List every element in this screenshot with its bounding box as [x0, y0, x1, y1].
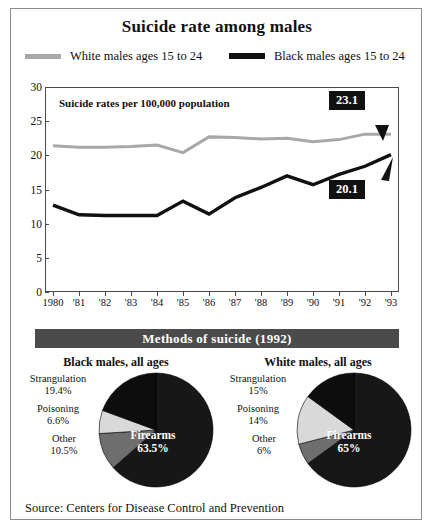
- x-tick-label: '86: [203, 297, 215, 308]
- x-tick-label: 1980: [43, 297, 64, 308]
- x-tick-label: '91: [333, 297, 345, 308]
- x-tick-label: '84: [151, 297, 163, 308]
- y-tick-mark: [45, 190, 49, 191]
- y-tick-label: 0: [16, 286, 42, 298]
- pie-slice-percent: 65%: [313, 442, 385, 455]
- y-tick-mark: [45, 155, 49, 156]
- page-title: Suicide rate among males: [11, 17, 423, 37]
- callout-black-value: 20.1: [329, 180, 365, 199]
- x-tick-label: '83: [125, 297, 137, 308]
- pie-slice-percent: 15%: [215, 385, 301, 397]
- y-tick-mark: [45, 121, 49, 122]
- pie-slice-percent: 63.5%: [117, 442, 189, 455]
- pie-slice-label: Poisoning14%: [215, 403, 301, 427]
- y-tick-mark: [45, 258, 49, 259]
- pie-title-black: Black males, all ages: [13, 355, 219, 370]
- pie-slice-percent: 14%: [215, 415, 301, 427]
- pie-slice-label-firearms: Firearms65%: [313, 429, 385, 455]
- x-tick-mark: [157, 292, 158, 296]
- pie-slice-percent: 19.4%: [15, 385, 101, 397]
- x-tick-mark: [261, 292, 262, 296]
- y-tick-mark: [45, 87, 49, 88]
- pie-title-white: White males, all ages: [215, 355, 421, 370]
- x-tick-mark: [209, 292, 210, 296]
- x-tick-mark: [183, 292, 184, 296]
- y-tick-label: 15: [16, 184, 42, 196]
- pie-slice-percent: 6%: [221, 445, 307, 457]
- legend-item-white-males: White males ages 15 to 24: [25, 47, 202, 65]
- x-tick-mark: [391, 292, 392, 296]
- pie-slice-percent: 10.5%: [21, 445, 107, 457]
- pie-slice-label: Other6%: [221, 433, 307, 457]
- series-line: [53, 134, 391, 152]
- callout-tail-black: [381, 157, 393, 181]
- x-tick-label: '90: [307, 297, 319, 308]
- pie-slice-name: Firearms: [326, 429, 371, 441]
- x-tick-mark: [235, 292, 236, 296]
- figure-panel: Suicide rate among males White males age…: [10, 8, 422, 520]
- y-tick-mark: [45, 224, 49, 225]
- x-tick-mark: [131, 292, 132, 296]
- y-tick-label: 5: [16, 252, 42, 264]
- source-caption: Source: Centers for Disease Control and …: [25, 501, 284, 516]
- x-tick-mark: [79, 292, 80, 296]
- pie-slice-name: Strangulation: [230, 373, 287, 384]
- pie-slice-label: Other10.5%: [21, 433, 107, 457]
- y-tick-label: 20: [16, 149, 42, 161]
- pie-slice-name: Strangulation: [30, 373, 87, 384]
- x-tick-label: '89: [281, 297, 293, 308]
- x-tick-label: '85: [177, 297, 189, 308]
- y-tick-label: 10: [16, 218, 42, 230]
- legend: White males ages 15 to 24 Black males ag…: [11, 47, 423, 67]
- legend-swatch-icon-black: [229, 53, 265, 59]
- x-tick-mark: [287, 292, 288, 296]
- pie-slice-name: Other: [252, 433, 276, 444]
- y-tick-label: 25: [16, 115, 42, 127]
- pie-slice-percent: 6.6%: [15, 415, 101, 427]
- pie-slice-label: Strangulation19.4%: [15, 373, 101, 397]
- pie-slice-label-firearms: Firearms63.5%: [117, 429, 189, 455]
- x-tick-mark: [313, 292, 314, 296]
- pie-slice-name: Poisoning: [237, 403, 279, 414]
- y-axis: 051015202530: [11, 77, 42, 302]
- x-tick-mark: [53, 292, 54, 296]
- y-tick-mark: [45, 292, 49, 293]
- x-tick-label: '82: [99, 297, 111, 308]
- y-tick-label: 30: [16, 81, 42, 93]
- legend-label-white: White males ages 15 to 24: [70, 49, 202, 64]
- pie-chart-white-males: White males, all ages Strangulation15%Po…: [215, 355, 421, 495]
- x-tick-label: '93: [385, 297, 397, 308]
- line-chart: Suicide rates per 100,000 population 051…: [11, 77, 423, 312]
- pie-slice-label: Strangulation15%: [215, 373, 301, 397]
- callout-white-value: 23.1: [329, 91, 365, 110]
- pie-slice-name: Poisoning: [37, 403, 79, 414]
- pie-slice-label: Poisoning6.6%: [15, 403, 101, 427]
- x-tick-label: '81: [73, 297, 85, 308]
- x-tick-mark: [105, 292, 106, 296]
- x-tick-mark: [339, 292, 340, 296]
- legend-item-black-males: Black males ages 15 to 24: [229, 47, 405, 65]
- x-tick-label: '87: [229, 297, 241, 308]
- pie-chart-black-males: Black males, all ages Strangulation19.4%…: [13, 355, 219, 495]
- pie-slice-name: Firearms: [130, 429, 175, 441]
- legend-swatch-icon-white: [25, 54, 61, 59]
- x-tick-mark: [365, 292, 366, 296]
- x-tick-label: '88: [255, 297, 267, 308]
- legend-label-black: Black males ages 15 to 24: [274, 49, 405, 64]
- x-tick-label: '92: [359, 297, 371, 308]
- methods-banner: Methods of suicide (1992): [35, 329, 399, 348]
- pie-slice-name: Other: [52, 433, 76, 444]
